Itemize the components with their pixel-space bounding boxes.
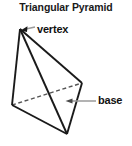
triangular-pyramid-figure — [0, 0, 132, 146]
vertex-label: vertex — [37, 23, 68, 35]
base-label: base — [98, 94, 122, 106]
diagram-canvas: Triangular Pyramid vertex base — [0, 0, 132, 146]
